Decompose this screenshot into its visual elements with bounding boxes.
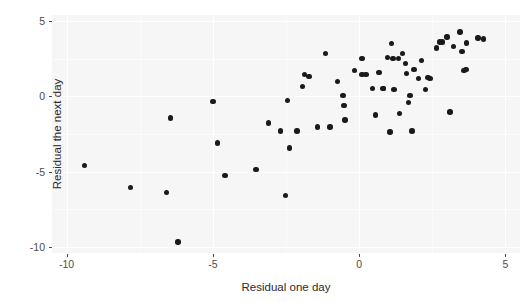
data-point <box>389 41 394 46</box>
data-point <box>168 115 173 120</box>
data-point <box>481 36 486 41</box>
gridline-minor-horizontal <box>52 134 520 135</box>
data-point <box>423 87 428 92</box>
data-point <box>342 117 347 122</box>
y-tick-label: 0 <box>39 91 45 102</box>
x-tick-mark <box>505 254 506 257</box>
x-tick-mark <box>359 254 360 257</box>
x-tick-mark <box>67 254 68 257</box>
data-point <box>370 86 375 91</box>
y-tick-label: -5 <box>36 166 45 177</box>
data-point <box>475 35 480 40</box>
data-point <box>175 239 180 244</box>
y-tick-label: 5 <box>39 16 45 27</box>
data-point <box>403 61 408 66</box>
gridline-major-vertical <box>359 15 360 253</box>
data-point <box>323 51 328 56</box>
gridline-major-vertical <box>213 15 214 253</box>
data-point <box>278 128 283 133</box>
y-axis-title: Residual the next day <box>51 79 63 190</box>
gridline-major-horizontal <box>52 172 520 173</box>
data-point <box>363 72 368 77</box>
data-point <box>335 79 340 84</box>
y-tick-label: -10 <box>30 241 45 252</box>
data-point <box>463 67 468 72</box>
scatter-plot: -10-505 -10-505 Residual the next day Re… <box>0 0 531 302</box>
data-point <box>128 185 133 190</box>
data-point <box>340 93 345 98</box>
data-point <box>400 51 405 56</box>
data-point <box>409 128 414 133</box>
gridline-minor-horizontal <box>52 59 520 60</box>
data-point <box>407 93 412 98</box>
data-point <box>359 56 364 61</box>
data-point <box>283 193 288 198</box>
data-point <box>215 140 220 145</box>
gridline-minor-horizontal <box>52 209 520 210</box>
data-point <box>294 128 299 133</box>
x-tick-label: 0 <box>356 259 362 270</box>
data-point <box>447 109 452 114</box>
data-point <box>387 129 392 134</box>
data-point <box>411 67 416 72</box>
data-point <box>404 71 409 76</box>
x-tick-mark <box>213 254 214 257</box>
data-point <box>210 99 215 104</box>
data-point <box>416 76 421 81</box>
y-tick-mark <box>49 247 52 248</box>
data-point <box>390 56 395 61</box>
data-point <box>451 44 456 49</box>
data-point <box>287 145 292 150</box>
data-point <box>406 100 411 105</box>
data-point <box>396 56 401 61</box>
data-point <box>397 111 402 116</box>
data-point <box>427 76 432 81</box>
data-point <box>464 40 469 45</box>
data-point <box>391 87 396 92</box>
data-point <box>306 74 311 79</box>
data-point <box>440 39 445 44</box>
x-tick-label: -5 <box>208 259 217 270</box>
data-point <box>300 84 305 89</box>
x-axis-title: Residual one day <box>242 281 331 293</box>
gridline-major-vertical <box>67 15 68 253</box>
data-point <box>373 112 378 117</box>
data-point <box>459 49 464 54</box>
data-point <box>352 68 357 73</box>
gridline-major-horizontal <box>52 21 520 22</box>
data-point <box>376 70 381 75</box>
data-point <box>222 173 227 178</box>
data-point <box>444 34 449 39</box>
gridline-major-vertical <box>505 15 506 253</box>
data-point <box>434 45 439 50</box>
data-point <box>457 29 462 34</box>
data-point <box>315 124 320 129</box>
data-point <box>164 190 169 195</box>
x-tick-label: 5 <box>502 259 508 270</box>
data-point <box>419 58 424 63</box>
data-point <box>82 163 87 168</box>
data-point <box>381 86 386 91</box>
plot-panel <box>52 15 520 253</box>
data-point <box>266 120 271 125</box>
x-tick-label: -10 <box>59 259 74 270</box>
y-tick-mark <box>49 21 52 22</box>
data-point <box>341 103 346 108</box>
gridline-major-horizontal <box>52 247 520 248</box>
data-point <box>285 98 290 103</box>
data-point <box>327 124 332 129</box>
